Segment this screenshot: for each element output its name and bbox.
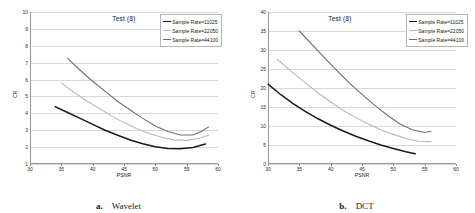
y-tick-label: 25 bbox=[250, 67, 266, 72]
legend-label: Sample Rate=44100 bbox=[172, 37, 218, 43]
legend-line-icon bbox=[409, 30, 417, 31]
legend-label: Sample Rate=44100 bbox=[418, 37, 464, 43]
y-tick-label: 4 bbox=[12, 111, 28, 116]
legend-line-icon bbox=[163, 39, 171, 40]
caption-text-wavelet: Wavelet bbox=[112, 201, 141, 211]
y-tick-label: 5 bbox=[250, 143, 266, 148]
y-tick-label: 10 bbox=[250, 124, 266, 129]
y-tick-label: 10 bbox=[12, 10, 28, 15]
x-tick-label: 60 bbox=[448, 167, 464, 172]
y-tick-label: 9 bbox=[12, 27, 28, 32]
legend-item[interactable]: Sample Rate=22050 bbox=[163, 26, 218, 35]
y-axis-title-wavelet: CR bbox=[12, 91, 18, 99]
y-tick-label: 40 bbox=[250, 10, 266, 15]
x-tick-label: 55 bbox=[417, 167, 433, 172]
data-series-line bbox=[68, 58, 209, 135]
y-tick-label: 3 bbox=[12, 128, 28, 133]
legend-item[interactable]: Sample Rate=44100 bbox=[163, 35, 218, 44]
legend-wavelet: Sample Rate=11025Sample Rate=22050Sample… bbox=[160, 14, 222, 47]
y-tick-label: 15 bbox=[250, 105, 266, 110]
chart-panel-wavelet: Test (8) Sample Rate=11025Sample Rate=22… bbox=[0, 0, 237, 213]
x-axis-title-wavelet: PSNR bbox=[94, 172, 154, 178]
plot-area-wavelet: Test (8) Sample Rate=11025Sample Rate=22… bbox=[30, 12, 218, 164]
legend-line-icon bbox=[409, 21, 417, 22]
data-series-line bbox=[277, 60, 431, 142]
y-tick-label: 6 bbox=[12, 78, 28, 83]
figure-caption-dct: b.DCT bbox=[238, 201, 475, 211]
x-axis-title-dct: PSNR bbox=[332, 172, 392, 178]
data-series-line bbox=[61, 83, 208, 140]
y-axis-title-dct: CR bbox=[250, 91, 256, 99]
y-tick-label: 7 bbox=[12, 61, 28, 66]
chart-panel-dct: Test (8) Sample Rate=11025Sample Rate=22… bbox=[238, 0, 475, 213]
y-tick-label: 30 bbox=[250, 48, 266, 53]
caption-letter-wavelet: a. bbox=[96, 201, 103, 211]
x-tick-label: 60 bbox=[210, 167, 226, 172]
legend-label: Sample Rate=11025 bbox=[172, 19, 217, 25]
figure-caption-wavelet: a.Wavelet bbox=[0, 201, 237, 211]
legend-item[interactable]: Sample Rate=11025 bbox=[409, 17, 464, 26]
data-series-line bbox=[55, 107, 205, 149]
y-tick-label: 8 bbox=[12, 44, 28, 49]
legend-line-icon bbox=[409, 39, 417, 40]
legend-item[interactable]: Sample Rate=11025 bbox=[163, 17, 218, 26]
x-tick-label: 55 bbox=[179, 167, 195, 172]
x-tick-label: 35 bbox=[291, 167, 307, 172]
x-tick-label: 35 bbox=[53, 167, 69, 172]
x-tick-label: 30 bbox=[22, 167, 38, 172]
legend-label: Sample Rate=22050 bbox=[418, 28, 464, 34]
y-tick-label: 2 bbox=[12, 145, 28, 150]
legend-item[interactable]: Sample Rate=22050 bbox=[409, 26, 464, 35]
caption-letter-dct: b. bbox=[339, 201, 346, 211]
legend-dct: Sample Rate=11025Sample Rate=22050Sample… bbox=[406, 14, 468, 47]
plot-area-dct: Test (8) Sample Rate=11025Sample Rate=22… bbox=[268, 12, 456, 164]
y-tick-label: 35 bbox=[250, 29, 266, 34]
legend-line-icon bbox=[163, 30, 171, 31]
legend-label: Sample Rate=11025 bbox=[418, 19, 463, 25]
x-tick-label: 30 bbox=[260, 167, 276, 172]
legend-item[interactable]: Sample Rate=44100 bbox=[409, 35, 464, 44]
legend-label: Sample Rate=22050 bbox=[172, 28, 218, 34]
figure-container: Test (8) Sample Rate=11025Sample Rate=22… bbox=[0, 0, 475, 213]
caption-text-dct: DCT bbox=[356, 201, 374, 211]
legend-line-icon bbox=[163, 21, 171, 22]
